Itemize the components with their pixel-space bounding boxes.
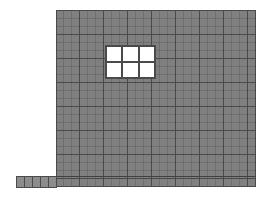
- wall-panel: [56, 10, 255, 186]
- fea-mesh-figure: [0, 0, 267, 197]
- mesh-canvas: [0, 0, 267, 197]
- footing-strip: [16, 176, 56, 187]
- window-opening: [106, 46, 155, 78]
- footing-fill: [16, 176, 56, 187]
